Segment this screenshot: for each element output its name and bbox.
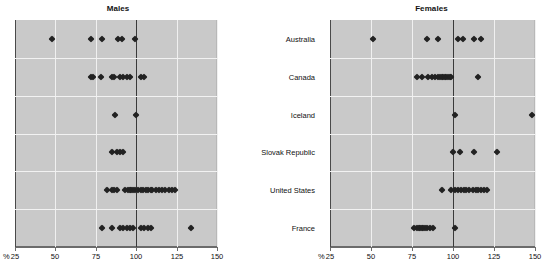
axis-tick-label: 150 [211,252,224,261]
axis-tick-label: 50 [367,252,375,261]
x-axis-males: 255075100125150 [15,247,217,265]
data-point [484,187,491,194]
band-separator [330,134,535,135]
axis-tick [412,247,413,251]
axis-tick [136,247,137,251]
data-point [112,111,119,118]
data-point [108,225,115,232]
axis-tick [55,247,56,251]
band-separator [330,96,535,97]
axis-tick-label: 150 [529,252,542,261]
data-point [131,35,138,42]
band-separator [15,96,217,97]
axis-tick-label: 100 [130,252,143,261]
band-separator [15,209,217,210]
axis-tick [15,247,16,251]
data-point [474,73,481,80]
axis-tick [453,247,454,251]
data-point [141,73,148,80]
data-point [456,149,463,156]
data-point [449,149,456,156]
percent-label-females: % [318,252,325,261]
band-separator [330,58,535,59]
axis-line [15,247,217,248]
axis-line [330,247,535,248]
percent-label-males: % [3,252,10,261]
axis-tick [96,247,97,251]
panel-females-title: Females [298,4,546,13]
panel-males-title: Males [0,4,253,13]
data-point [133,111,140,118]
band-separator [15,134,217,135]
gridline [535,20,536,247]
axis-tick-label: 100 [447,252,460,261]
data-point [99,35,106,42]
data-point [477,35,484,42]
data-point [99,225,106,232]
axis-tick-label: 75 [408,252,416,261]
data-point [97,73,104,80]
axis-tick-label: 25 [11,252,19,261]
data-point [188,225,195,232]
data-point [120,149,127,156]
axis-tick [535,247,536,251]
band-separator [330,171,535,172]
axis-tick-label: 50 [51,252,59,261]
plot-area-females [330,20,535,247]
axis-tick-label: 125 [171,252,184,261]
axis-tick [494,247,495,251]
axis-tick [217,247,218,251]
data-point [471,149,478,156]
data-point [435,35,442,42]
data-point [459,35,466,42]
axis-tick [177,247,178,251]
axis-tick-label: 125 [488,252,501,261]
data-point [423,35,430,42]
axis-tick [371,247,372,251]
x-axis-females: 255075100125150 [330,247,535,265]
band-separator [330,209,535,210]
axis-tick [330,247,331,251]
plot-area-males [15,20,217,247]
data-point [438,187,445,194]
data-point [87,35,94,42]
band-separator [15,171,217,172]
axis-tick-label: 75 [92,252,100,261]
band-separator [15,58,217,59]
axis-tick-label: 25 [326,252,334,261]
